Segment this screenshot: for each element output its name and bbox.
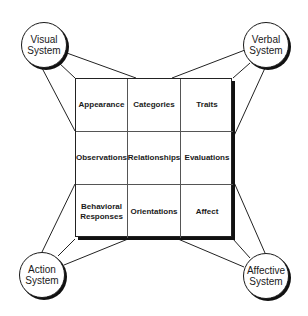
cell-orientations: Orientations (128, 185, 181, 238)
connector-affective-right (233, 180, 265, 253)
connector-action-bottom (64, 239, 128, 265)
connector-action-corner (58, 239, 75, 256)
cell-observations: Observations (76, 132, 128, 185)
connector-visual-corner (58, 62, 75, 78)
cell-appearance: Appearance (76, 79, 128, 132)
cell-traits: Traits (181, 79, 233, 132)
connector-verbal-corner (233, 63, 250, 78)
connector-visual-left (42, 68, 75, 131)
node-verbal-system: Verbal System (243, 22, 289, 68)
connector-verbal-right (233, 68, 265, 138)
node-visual-system: Visual System (21, 22, 67, 68)
cell-categories: Categories (128, 79, 181, 132)
node-affective-system: Affective System (243, 253, 289, 299)
connector-affective-corner (233, 239, 250, 258)
cell-evaluations: Evaluations (181, 132, 233, 185)
connector-action-left (42, 184, 75, 252)
connector-verbal-top (172, 50, 245, 78)
cell-relationships: Relationships (128, 132, 181, 185)
connector-visual-top (64, 52, 136, 78)
node-action-system: Action System (19, 252, 65, 298)
connector-affective-bottom (178, 239, 244, 267)
construct-grid: Appearance Categories Traits Observation… (75, 78, 232, 237)
cell-affect: Affect (181, 185, 233, 238)
cell-behavioral-responses: Behavioral Responses (76, 185, 128, 238)
diagram-canvas: Appearance Categories Traits Observation… (0, 0, 308, 316)
